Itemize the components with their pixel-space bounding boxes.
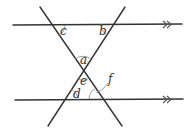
- angle-diagram: c b a e d f: [0, 0, 195, 132]
- angle-label-e: e: [80, 74, 87, 88]
- angle-label-c: c: [60, 24, 67, 38]
- angle-f-arc: [89, 88, 96, 99]
- bottom-parallel-line: [15, 99, 183, 100]
- angle-label-f: f: [107, 72, 115, 86]
- angle-label-a: a: [80, 53, 87, 67]
- top-parallel-line: [13, 24, 182, 25]
- angle-label-b: b: [99, 24, 107, 38]
- angle-label-d: d: [73, 87, 81, 101]
